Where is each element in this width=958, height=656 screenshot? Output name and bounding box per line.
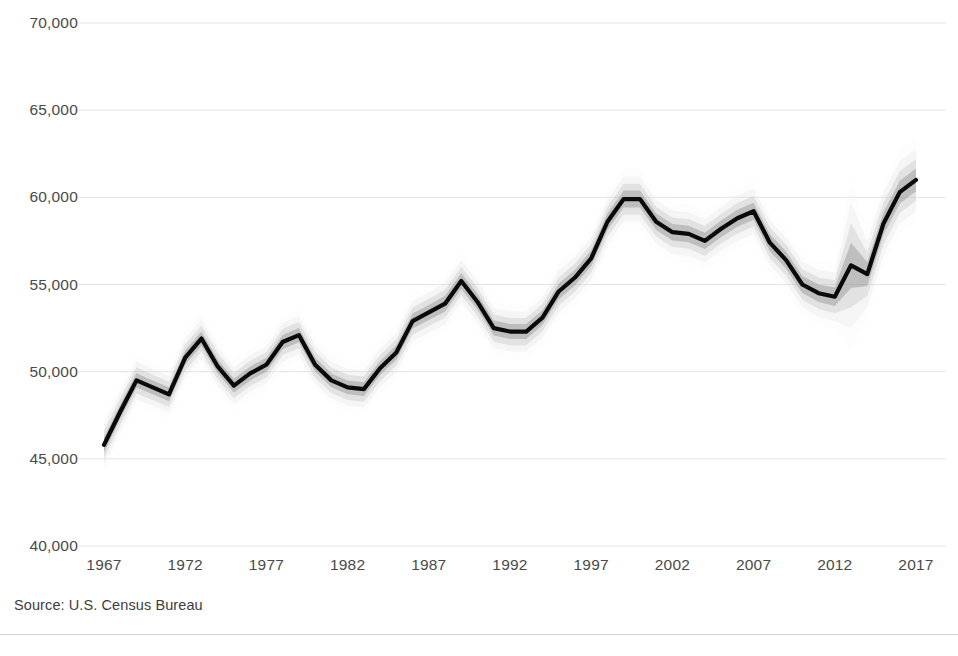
y-tick-label: 50,000 [6, 363, 78, 381]
y-tick-label: 55,000 [6, 276, 78, 294]
y-tick-label: 40,000 [6, 537, 78, 555]
x-tick-label: 1967 [69, 556, 139, 574]
x-tick-label: 1977 [231, 556, 301, 574]
uncertainty-band-outermost [104, 138, 916, 473]
y-tick-label: 60,000 [6, 188, 78, 206]
x-tick-label: 1982 [313, 556, 383, 574]
line-chart: 40,00045,00050,00055,00060,00065,00070,0… [0, 0, 958, 600]
x-tick-label: 2002 [637, 556, 707, 574]
source-note: Source: U.S. Census Bureau [14, 597, 203, 613]
x-tick-label: 2007 [719, 556, 789, 574]
x-tick-label: 1997 [556, 556, 626, 574]
x-tick-label: 2017 [881, 556, 951, 574]
y-tick-label: 70,000 [6, 14, 78, 32]
x-tick-label: 1987 [394, 556, 464, 574]
x-tick-label: 2012 [800, 556, 870, 574]
x-tick-label: 1992 [475, 556, 545, 574]
y-tick-label: 45,000 [6, 450, 78, 468]
bottom-divider [0, 634, 958, 635]
uncertainty-bands [104, 138, 916, 473]
x-tick-label: 1972 [150, 556, 220, 574]
y-tick-label: 65,000 [6, 101, 78, 119]
chart-svg [0, 0, 958, 600]
chart-page: 40,00045,00050,00055,00060,00065,00070,0… [0, 0, 958, 656]
